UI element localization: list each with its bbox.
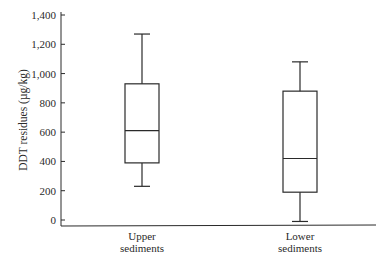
y-tick-label: 600 [40, 126, 57, 138]
category-label: sediments [278, 242, 322, 254]
x-axis-line [61, 225, 376, 226]
box-plot-chart: 02004006008001,0001,2001,400 Uppersedime… [0, 0, 376, 262]
y-tick-label: 1,200 [31, 38, 56, 50]
y-axis: 02004006008001,0001,2001,400 [31, 9, 65, 226]
interquartile-box [125, 84, 159, 163]
y-axis-title: DDT residues (µg/kg) [17, 69, 30, 171]
category-label: sediments [120, 242, 164, 254]
interquartile-box [283, 91, 317, 192]
category-label: Lower [286, 230, 315, 242]
y-tick-label: 400 [40, 155, 57, 167]
box-upper-sediments: Uppersediments [120, 34, 164, 254]
y-tick-label: 0 [51, 214, 57, 226]
box-plots: UppersedimentsLowersediments [120, 34, 322, 254]
y-tick-label: 1,000 [31, 68, 56, 80]
y-tick-label: 800 [40, 97, 57, 109]
x-axis [61, 225, 376, 226]
y-tick-label: 200 [40, 185, 57, 197]
category-label: Upper [128, 230, 156, 242]
y-tick-label: 1,400 [31, 9, 56, 21]
